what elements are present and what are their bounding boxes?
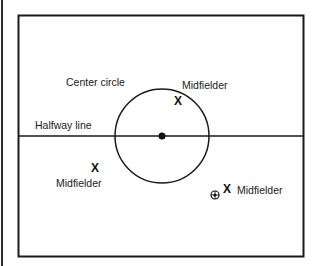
halfway-line-label: Halfway line — [35, 120, 92, 131]
player-marker-2: X — [91, 162, 99, 174]
player-label-1: Midfielder — [182, 80, 228, 91]
soccer-ball-icon — [211, 191, 219, 199]
player-label-2: Midfielder — [56, 178, 102, 189]
player-marker-1: X — [174, 95, 182, 107]
field-diagram — [0, 0, 318, 266]
player-marker-3: X — [223, 183, 231, 195]
player-label-3: Midfielder — [237, 185, 283, 196]
center-circle-label: Center circle — [66, 77, 125, 88]
center-spot-icon — [159, 133, 166, 140]
